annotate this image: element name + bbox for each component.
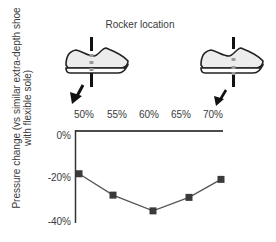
data-point-marker xyxy=(150,207,157,214)
series-line xyxy=(79,174,221,211)
x-tick-label: 50% xyxy=(74,109,94,120)
y-tick-label: -40% xyxy=(48,216,71,227)
chart-title: Rocker location xyxy=(106,19,175,30)
arrow-icon-right xyxy=(214,90,226,106)
arrow-icon-left xyxy=(70,85,83,104)
y-axis-label: Pressure change (vs similar extra-depth … xyxy=(11,7,33,209)
data-point-marker xyxy=(218,176,225,183)
x-tick-label: 65% xyxy=(171,109,191,120)
data-point-marker xyxy=(76,170,83,177)
x-tick-label: 55% xyxy=(107,109,127,120)
y-axis-label-line2: with flexible sole) xyxy=(22,70,33,147)
data-point-marker xyxy=(110,192,117,199)
data-point-marker xyxy=(186,194,193,201)
shoe-icon-right xyxy=(201,37,263,87)
shoe-icon-left xyxy=(66,37,128,87)
y-tick-label: -20% xyxy=(48,172,71,183)
x-tick-label: 60% xyxy=(139,109,159,120)
y-axis-label-line1: Pressure change (vs similar extra-depth … xyxy=(11,7,22,209)
x-tick-label: 70% xyxy=(203,109,223,120)
data-series xyxy=(76,170,225,214)
x-axis-ticks: 50% 55% 60% 65% 70% xyxy=(74,109,223,120)
chart: Rocker location Pressure change (vs simi… xyxy=(0,0,276,242)
y-tick-label: 0% xyxy=(57,130,72,141)
y-axis-ticks: 0% -20% -40% xyxy=(48,130,71,227)
